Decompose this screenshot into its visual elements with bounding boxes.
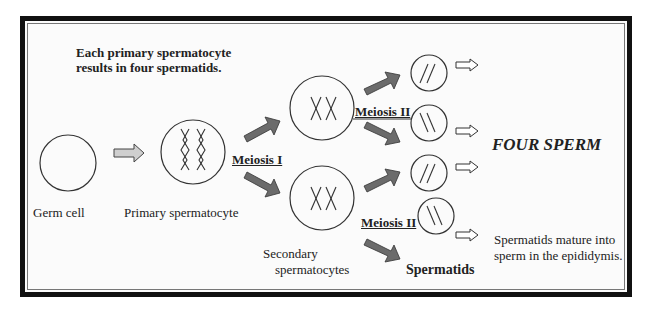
spermatid-1 <box>411 55 447 91</box>
meiosis-2-top-label: Meiosis II <box>355 104 410 119</box>
mature-label-line-1: Spermatids mature into <box>494 232 615 247</box>
light-arrow-icon <box>114 144 144 162</box>
primary-spermatocyte-label: Primary spermatocyte <box>124 205 238 220</box>
thick-arrow-up-icon <box>244 117 280 142</box>
chromosome-tetrad-icon <box>181 129 205 170</box>
spermatid-2 <box>411 105 447 141</box>
primary-spermatocyte-circle <box>161 120 225 184</box>
title-line-1: Each primary spermatocyte <box>76 45 231 60</box>
spermatid-3 <box>411 155 447 191</box>
germ-cell-label: Germ cell <box>33 205 85 220</box>
secondary-spermatocyte-top-circle <box>290 76 354 140</box>
germ-cell-circle <box>40 135 96 191</box>
thick-arrow-icon <box>364 122 400 145</box>
chromosome-pair-top-icon <box>311 97 336 120</box>
outline-arrow-icon <box>456 59 478 71</box>
thick-arrow-down-icon <box>244 172 280 197</box>
thick-arrow-icon <box>364 239 400 262</box>
secondary-spermatocyte-bottom-circle <box>290 166 354 230</box>
mature-label-line-2: sperm in the epididymis. <box>494 248 623 263</box>
thick-arrow-icon <box>364 72 400 95</box>
outline-arrow-icon <box>456 161 478 173</box>
meiosis-2-bottom-label: Meiosis II <box>361 215 416 230</box>
four-sperm-label: FOUR SPERM <box>492 137 601 152</box>
thick-arrow-icon <box>364 169 400 192</box>
meiosis-1-label: Meiosis I <box>232 152 282 167</box>
title-line-2: results in four spermatids. <box>76 60 221 75</box>
secondary-label-line-1: Secondary <box>263 246 318 261</box>
spermatid-4 <box>418 198 454 234</box>
outline-arrow-icon <box>456 229 478 241</box>
chromosome-pair-bottom-icon <box>311 187 336 210</box>
spermatids-label: Spermatids <box>406 262 474 277</box>
secondary-label-line-2: spermatocytes <box>275 262 349 277</box>
outline-arrow-icon <box>456 125 478 137</box>
